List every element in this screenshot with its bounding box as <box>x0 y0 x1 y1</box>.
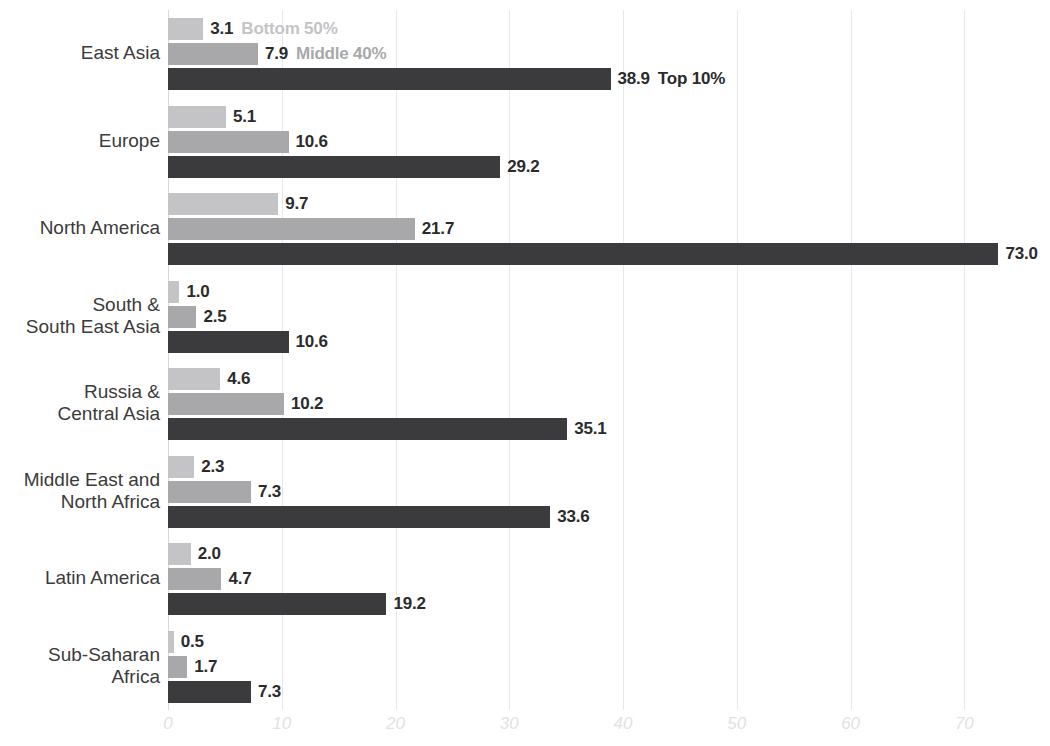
bar-value-label: 9.7 <box>285 194 308 214</box>
bar-row: 9.7 <box>168 193 308 215</box>
x-tick-70: 70 <box>955 714 974 734</box>
bar-row: 29.2 <box>168 156 539 178</box>
bar-group: 2.37.333.6 <box>168 454 1044 529</box>
bar-value-label: 35.1 <box>574 419 606 439</box>
bar-row: 3.1Bottom 50% <box>168 18 338 40</box>
bar-value-label: 3.1 <box>210 19 233 39</box>
category-label-line: Russia & <box>0 381 160 403</box>
bar[interactable] <box>168 18 203 40</box>
bar-row: 73.0 <box>168 243 1038 265</box>
category-label: South &South East Asia <box>0 294 160 339</box>
bar[interactable] <box>168 481 251 503</box>
bar[interactable] <box>168 131 289 153</box>
bar-row: 10.2 <box>168 393 323 415</box>
x-tick-50: 50 <box>727 714 746 734</box>
bar-value-label: 38.9 <box>618 69 650 89</box>
bar[interactable] <box>168 331 289 353</box>
bar[interactable] <box>168 418 567 440</box>
bar[interactable] <box>168 656 187 678</box>
bar[interactable] <box>168 368 220 390</box>
bar-value-label: 2.3 <box>201 457 224 477</box>
bar-value-label: 29.2 <box>507 157 539 177</box>
category-label-line: East Asia <box>0 42 160 64</box>
category-label: Latin America <box>0 567 160 589</box>
category-label: East Asia <box>0 42 160 64</box>
legend-item-1[interactable]: Middle 40% <box>296 44 387 64</box>
bar-group: 0.51.77.3 <box>168 629 1044 704</box>
bar-row: 7.3 <box>168 681 281 703</box>
category-label-line: Latin America <box>0 567 160 589</box>
bar-group: 4.610.235.1 <box>168 366 1044 441</box>
category-label-line: Middle East and <box>0 469 160 491</box>
chart-container: East AsiaEuropeNorth AmericaSouth &South… <box>0 0 1050 746</box>
bar-row: 10.6 <box>168 331 328 353</box>
bar[interactable] <box>168 568 221 590</box>
bar-value-label: 7.3 <box>258 482 281 502</box>
bar-row: 19.2 <box>168 593 426 615</box>
category-label-line: North Africa <box>0 491 160 513</box>
bar[interactable] <box>168 631 174 653</box>
bar-row: 10.6 <box>168 131 328 153</box>
x-tick-60: 60 <box>841 714 860 734</box>
bar-groups: 3.1Bottom 50%7.9Middle 40%38.9Top 10%5.1… <box>168 10 1044 710</box>
bar[interactable] <box>168 156 500 178</box>
bar-value-label: 10.6 <box>296 132 328 152</box>
x-tick-10: 10 <box>272 714 291 734</box>
bar[interactable] <box>168 393 284 415</box>
bar-row: 33.6 <box>168 506 590 528</box>
bar[interactable] <box>168 456 194 478</box>
bar-value-label: 2.0 <box>198 544 221 564</box>
bar[interactable] <box>168 43 258 65</box>
bar-group: 3.1Bottom 50%7.9Middle 40%38.9Top 10% <box>168 16 1044 91</box>
bar[interactable] <box>168 306 196 328</box>
bar-row: 2.3 <box>168 456 224 478</box>
bar-row: 4.6 <box>168 368 250 390</box>
category-label-line: South & <box>0 294 160 316</box>
category-label: Europe <box>0 130 160 152</box>
category-label: North America <box>0 217 160 239</box>
x-axis-tick-labels: 010203040506070 <box>168 714 1044 744</box>
bar-value-label: 7.9 <box>265 44 288 64</box>
legend-item-0[interactable]: Bottom 50% <box>241 19 337 39</box>
bar[interactable] <box>168 68 611 90</box>
bar-value-label: 7.3 <box>258 682 281 702</box>
bar-group: 2.04.719.2 <box>168 541 1044 616</box>
category-label-line: Africa <box>0 666 160 688</box>
x-tick-20: 20 <box>386 714 405 734</box>
bar-value-label: 10.6 <box>296 332 328 352</box>
bar-row: 2.0 <box>168 543 221 565</box>
bar-value-label: 33.6 <box>557 507 589 527</box>
bar-row: 0.5 <box>168 631 204 653</box>
bar[interactable] <box>168 193 278 215</box>
bar[interactable] <box>168 106 226 128</box>
bar-value-label: 5.1 <box>233 107 256 127</box>
bar-row: 5.1 <box>168 106 256 128</box>
bar[interactable] <box>168 543 191 565</box>
bar-row: 35.1 <box>168 418 607 440</box>
x-tick-0: 0 <box>163 714 172 734</box>
bar-value-label: 0.5 <box>181 632 204 652</box>
category-label-line: South East Asia <box>0 316 160 338</box>
category-label-line: North America <box>0 217 160 239</box>
category-label-line: Sub-Saharan <box>0 644 160 666</box>
x-tick-40: 40 <box>614 714 633 734</box>
bar-value-label: 19.2 <box>393 594 425 614</box>
category-label-line: Central Asia <box>0 403 160 425</box>
bar-row: 1.7 <box>168 656 217 678</box>
bar[interactable] <box>168 506 550 528</box>
category-label: Sub-SaharanAfrica <box>0 644 160 689</box>
category-label-line: Europe <box>0 130 160 152</box>
bar-group: 1.02.510.6 <box>168 279 1044 354</box>
bar[interactable] <box>168 281 179 303</box>
legend-item-2[interactable]: Top 10% <box>658 69 725 89</box>
bar[interactable] <box>168 681 251 703</box>
bar-value-label: 1.7 <box>194 657 217 677</box>
bar[interactable] <box>168 243 998 265</box>
bar[interactable] <box>168 218 415 240</box>
bar[interactable] <box>168 593 386 615</box>
category-label: Middle East andNorth Africa <box>0 469 160 514</box>
bar-group: 5.110.629.2 <box>168 104 1044 179</box>
plot-area: 3.1Bottom 50%7.9Middle 40%38.9Top 10%5.1… <box>168 10 1044 710</box>
bar-value-label: 4.7 <box>228 569 251 589</box>
bar-row: 4.7 <box>168 568 252 590</box>
